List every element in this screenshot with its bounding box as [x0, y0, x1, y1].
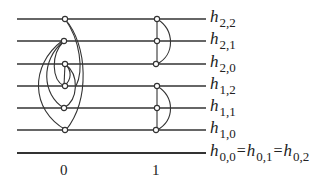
label-h11: h1,1 — [210, 96, 236, 120]
label-h21: h2,1 — [210, 29, 236, 53]
label-h00-equality: h0,0=h0,1=h0,2 — [210, 141, 309, 165]
node-0-h10 — [62, 127, 67, 132]
node-1-h11 — [154, 105, 159, 110]
label-h20: h2,0 — [210, 52, 236, 76]
node-1-h20 — [153, 61, 158, 66]
node-1-h22 — [154, 16, 159, 21]
x-label-1: 1 — [152, 162, 160, 179]
label-h12: h1,2 — [210, 74, 236, 98]
label-h22: h2,2 — [210, 7, 236, 31]
node-0-h20 — [62, 61, 67, 66]
node-1-h21 — [154, 38, 159, 43]
node-0-h22 — [62, 16, 67, 21]
node-0-h21 — [61, 38, 66, 43]
column-1-arcs — [157, 19, 171, 130]
node-0-h12 — [62, 83, 67, 88]
node-0-h11 — [61, 105, 66, 110]
label-h10: h1,0 — [210, 118, 236, 142]
x-label-0: 0 — [60, 162, 68, 179]
node-1-h12 — [154, 83, 159, 88]
column-0-arcs — [38, 19, 83, 130]
node-1-h10 — [153, 127, 158, 132]
